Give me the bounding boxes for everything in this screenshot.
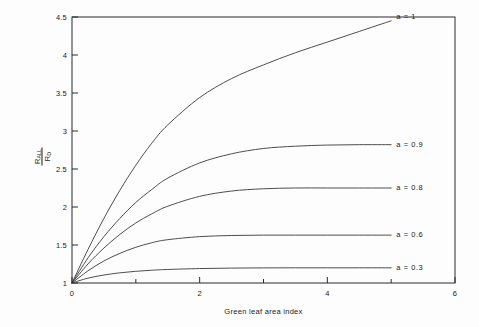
series-label-2: a = 0.8 bbox=[396, 183, 423, 192]
series-line-4 bbox=[72, 268, 391, 283]
y-tick-label: 1.5 bbox=[40, 241, 67, 250]
y-axis-numerator: RALL bbox=[34, 148, 43, 165]
axis-ticks bbox=[72, 17, 455, 283]
series-line-3 bbox=[72, 235, 391, 283]
x-tick-label: 4 bbox=[317, 289, 337, 298]
y-tick-label: 2 bbox=[40, 203, 67, 212]
series-line-1 bbox=[72, 145, 391, 283]
axes-frame bbox=[72, 17, 455, 283]
y-tick-label: 4.5 bbox=[40, 13, 67, 22]
data-curves bbox=[72, 21, 391, 283]
series-line-0 bbox=[72, 21, 391, 283]
x-axis-title: Green leaf area index bbox=[72, 307, 455, 316]
plot-canvas bbox=[0, 0, 479, 327]
y-tick-label: 1 bbox=[40, 279, 67, 288]
x-tick-label: 6 bbox=[445, 289, 465, 298]
series-label-1: a = 0.9 bbox=[396, 140, 423, 149]
x-tick-label: 0 bbox=[62, 289, 82, 298]
y-axis-title: RALL RD bbox=[34, 135, 51, 179]
series-label-3: a = 0.6 bbox=[396, 230, 423, 239]
y-tick-label: 3.5 bbox=[40, 89, 67, 98]
x-tick-label: 2 bbox=[190, 289, 210, 298]
chart-figure: 11.522.533.544.5 0246 a = 1a = 0.9a = 0.… bbox=[0, 0, 479, 327]
series-label-4: a = 0.3 bbox=[396, 263, 423, 272]
y-tick-label: 4 bbox=[40, 51, 67, 60]
y-axis-denominator: RD bbox=[43, 148, 51, 165]
series-label-0: a = 1 bbox=[396, 12, 416, 21]
